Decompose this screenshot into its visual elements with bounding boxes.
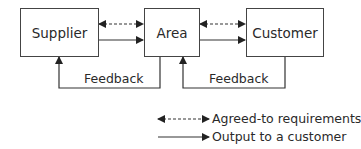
area-box: Area [144,8,200,57]
area-label: Area [156,25,187,41]
legend-requirements-label: Agreed-to requirements [212,111,361,126]
supplier-box: Supplier [20,8,99,57]
legend-output-label: Output to a customer [212,129,346,144]
feedback-label-1: Feedback [84,71,144,86]
supplier-label: Supplier [32,25,88,41]
customer-box: Customer [246,8,324,57]
customer-label: Customer [252,25,318,41]
feedback-label-2: Feedback [209,71,269,86]
